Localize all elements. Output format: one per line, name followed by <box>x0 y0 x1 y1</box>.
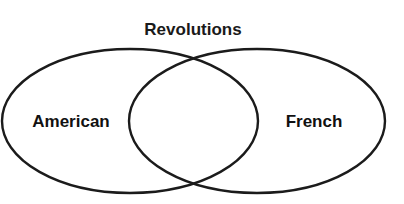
venn-diagram-canvas: Revolutions American French <box>0 0 404 204</box>
diagram-title: Revolutions <box>144 20 241 39</box>
set-label-left: American <box>32 112 109 131</box>
venn-diagram-svg: Revolutions American French <box>0 0 404 204</box>
set-label-right: French <box>286 112 343 131</box>
